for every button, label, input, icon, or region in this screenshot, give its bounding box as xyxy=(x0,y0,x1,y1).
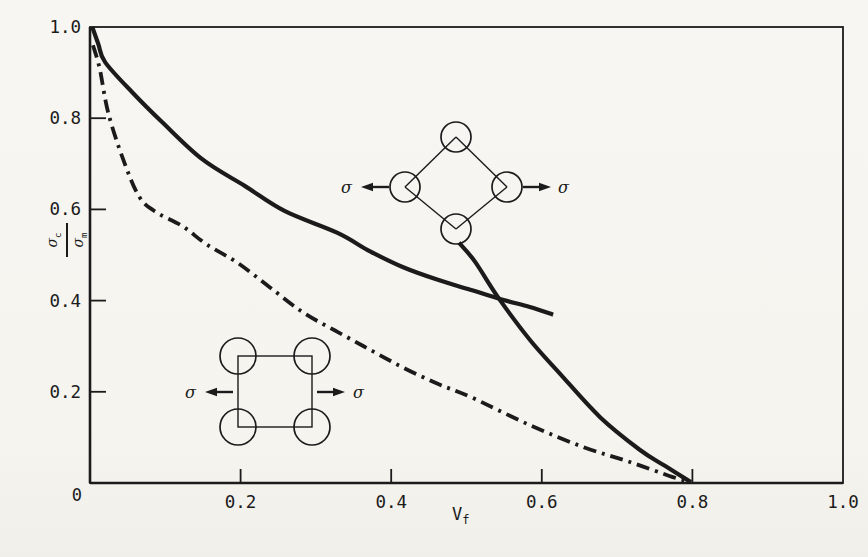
square-stress-arrow-right-head xyxy=(333,388,345,396)
square-stress-arrow-left-head xyxy=(205,388,217,396)
sigma-label: σ xyxy=(353,383,365,402)
x-tick-label: 0.8 xyxy=(677,492,709,512)
y-tick-label: 0.4 xyxy=(49,291,81,311)
sigma-label: σ xyxy=(558,178,570,197)
x-tick-label: 0.6 xyxy=(526,492,558,512)
diamond-array-branch-curve xyxy=(459,243,691,482)
y-axis-label: σc σm xyxy=(27,200,107,280)
sigma-label: σ xyxy=(185,383,197,402)
figure-root: 0.20.40.60.81.00.20.40.60.81.0σσσσ σc σm… xyxy=(0,0,868,557)
x-axis-label: Vf xyxy=(452,504,469,527)
diamond-edge xyxy=(405,187,456,229)
diamond-edge xyxy=(405,137,456,187)
x-tick-label: 1.0 xyxy=(827,492,859,512)
diamond-edge xyxy=(456,187,507,229)
fraction-bar xyxy=(66,223,68,257)
sigma-label: σ xyxy=(341,178,353,197)
y-tick-label: 0.8 xyxy=(49,108,81,128)
diamond-stress-arrow-right-head xyxy=(539,183,551,191)
sigma-ratio-fraction: σc σm xyxy=(43,223,90,257)
y-tick-label: 1.0 xyxy=(49,17,81,37)
square-edge xyxy=(238,356,312,427)
fraction-numerator: σc xyxy=(43,233,65,248)
fraction-denominator: σm xyxy=(69,233,91,248)
y-tick-label: 0.2 xyxy=(49,382,81,402)
plot-frame xyxy=(90,27,843,483)
diamond-stress-arrow-left-head xyxy=(361,183,373,191)
diamond-edge xyxy=(456,137,507,187)
x-tick-label: 0.4 xyxy=(375,492,407,512)
chart-canvas: 0.20.40.60.81.00.20.40.60.81.0σσσσ xyxy=(0,0,868,557)
origin-tick-label: 0 xyxy=(60,485,82,505)
x-tick-label: 0.2 xyxy=(225,492,257,512)
